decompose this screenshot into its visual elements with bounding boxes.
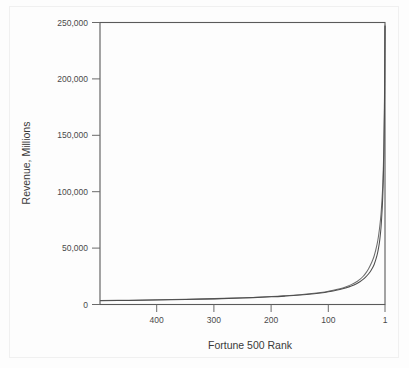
x-tick-label: 300: [207, 315, 221, 325]
y-tick-label: 0: [83, 300, 88, 310]
revenue-rank-line-chart: 250,000 200,000 150,000 100,000 50,000 0…: [0, 0, 409, 368]
y-tick-labels: 250,000 200,000 150,000 100,000 50,000 0: [57, 18, 88, 310]
y-tick-label: 150,000: [57, 130, 88, 140]
x-tick-label: 100: [321, 315, 335, 325]
y-tick-label: 200,000: [57, 74, 88, 84]
x-tick-marks: [157, 305, 385, 313]
x-tick-label: 400: [150, 315, 164, 325]
y-tick-label: 250,000: [57, 18, 88, 28]
y-tick-label: 100,000: [57, 187, 88, 197]
plot-frame: [100, 23, 385, 305]
y-axis-title: Revenue, Millions: [20, 122, 32, 205]
x-axis-title: Fortune 500 Rank: [208, 339, 293, 351]
y-tick-label: 50,000: [62, 243, 88, 253]
y-tick-marks: [92, 23, 100, 305]
x-tick-label: 1: [383, 315, 388, 325]
x-tick-label: 200: [264, 315, 278, 325]
x-tick-labels: 400 300 200 100 1: [150, 315, 388, 325]
revenue-curve-primary: [100, 26, 385, 301]
chart-figure: 250,000 200,000 150,000 100,000 50,000 0…: [0, 0, 409, 368]
revenue-curve-secondary: [100, 25, 385, 301]
